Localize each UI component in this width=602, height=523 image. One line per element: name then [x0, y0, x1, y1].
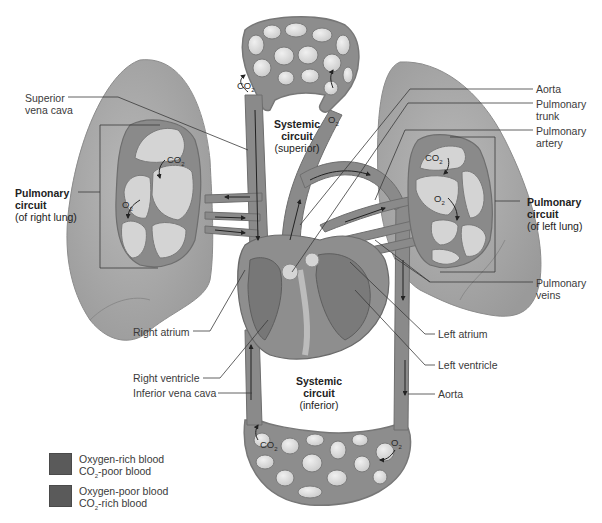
right-atrium-label: Right atrium — [133, 326, 190, 338]
oxygen-poor-swatch — [49, 485, 72, 507]
systemic-inferior-line2: circuit — [284, 387, 354, 399]
pcl-line2: circuit — [527, 208, 582, 220]
legend-text-oxygen-poor: Oxygen-poor blood CO2-rich blood — [79, 485, 168, 514]
co-text: CO — [79, 465, 95, 477]
co2-superior-label: CO2 — [237, 80, 255, 93]
o2-sub: 2 — [398, 444, 401, 450]
circulation-diagram: Systemic circuit (superior) Systemic cir… — [0, 0, 602, 523]
o2-left-lung-label: O2 — [434, 193, 445, 206]
oxygen-rich-swatch — [49, 453, 72, 475]
co2-sub: 2 — [181, 161, 184, 167]
co2-text: CO — [167, 154, 181, 165]
co2-text: CO — [425, 152, 439, 163]
pcr-line3: (of right lung) — [15, 211, 77, 223]
pulmonary-circuit-left-label: Pulmonary circuit (of left lung) — [527, 196, 582, 232]
svc-line2: vena cava — [25, 104, 73, 116]
pveins-line2: veins — [536, 289, 586, 301]
left-ventricle-label: Left ventricle — [438, 359, 498, 371]
post-text: -rich blood — [98, 497, 147, 509]
pveins-line1: Pulmonary — [536, 277, 586, 289]
pcr-line1: Pulmonary — [15, 187, 77, 199]
right-ventricle-label: Right ventricle — [133, 372, 200, 384]
co2-text: CO — [260, 439, 274, 450]
inferior-vena-cava-label: Inferior vena cava — [133, 387, 216, 399]
pulmonary-trunk-label: Pulmonary trunk — [536, 98, 586, 122]
diagram-artwork — [0, 0, 602, 523]
o2-sub: 2 — [335, 121, 338, 127]
systemic-inferior-label: Systemic circuit (inferior) — [284, 375, 354, 411]
o2-inferior-label: O2 — [391, 437, 402, 450]
left-atrium-label: Left atrium — [438, 328, 488, 340]
co2-sub: 2 — [274, 446, 277, 452]
legend-item-oxygen-rich: Oxygen-rich blood CO2-poor blood — [49, 453, 164, 482]
aorta-bottom-label: Aorta — [438, 388, 463, 400]
co2-inferior-label: CO2 — [260, 439, 278, 452]
o2-superior-label: O2 — [328, 114, 339, 127]
pulmonary-artery-label: Pulmonary artery — [536, 125, 586, 149]
pcl-line3: (of left lung) — [527, 220, 582, 232]
ptrunk-line1: Pulmonary — [536, 98, 586, 110]
superior-vena-cava-label: Superior vena cava — [25, 92, 73, 116]
svc-line1: Superior — [25, 92, 73, 104]
co2-sub: 2 — [251, 87, 254, 93]
legend-line2: CO2-poor blood — [79, 465, 164, 482]
left-lung-alveoli — [408, 135, 492, 268]
ptrunk-line2: trunk — [536, 110, 586, 122]
legend-line1: Oxygen-rich blood — [79, 453, 164, 465]
systemic-superior-label: Systemic circuit (superior) — [262, 118, 332, 154]
legend-item-oxygen-poor: Oxygen-poor blood CO2-rich blood — [49, 485, 168, 514]
inferior-capillary-bed — [244, 420, 410, 505]
pulmonary-circuit-right-label: Pulmonary circuit (of right lung) — [15, 187, 77, 223]
legend-line2: CO2-rich blood — [79, 497, 168, 514]
systemic-superior-line1: Systemic — [262, 118, 332, 130]
o2-right-lung-label: O2 — [122, 199, 133, 212]
partery-line2: artery — [536, 137, 586, 149]
legend-line1: Oxygen-poor blood — [79, 485, 168, 497]
co2-text: CO — [237, 80, 251, 91]
systemic-inferior-line3: (inferior) — [284, 399, 354, 411]
o2-sub: 2 — [441, 200, 444, 206]
systemic-superior-line2: circuit — [262, 130, 332, 142]
co2-right-lung-label: CO2 — [167, 154, 185, 167]
pcr-line2: circuit — [15, 199, 77, 211]
right-lung-alveoli — [116, 120, 201, 267]
systemic-superior-line3: (superior) — [262, 142, 332, 154]
heart — [238, 235, 389, 359]
co-text: CO — [79, 497, 95, 509]
post-text: -poor blood — [98, 465, 151, 477]
co2-sub: 2 — [439, 159, 442, 165]
aorta-top-label: Aorta — [536, 83, 561, 95]
partery-line1: Pulmonary — [536, 125, 586, 137]
systemic-inferior-line1: Systemic — [284, 375, 354, 387]
o2-sub: 2 — [129, 206, 132, 212]
pcl-line1: Pulmonary — [527, 196, 582, 208]
pulmonary-veins-label: Pulmonary veins — [536, 277, 586, 301]
legend-text-oxygen-rich: Oxygen-rich blood CO2-poor blood — [79, 453, 164, 482]
co2-left-lung-label: CO2 — [425, 152, 443, 165]
